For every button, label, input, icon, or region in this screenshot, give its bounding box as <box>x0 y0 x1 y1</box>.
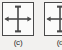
figure-panel-row: (c) (d <box>0 0 62 50</box>
figure-panel-c <box>2 2 34 36</box>
panel-caption-c: (c) <box>2 37 34 48</box>
panel-caption-d: (d <box>44 37 62 48</box>
cross-arrows-icon-c <box>2 2 34 36</box>
cross-arrows-icon-d <box>44 2 62 36</box>
figure-panel-d <box>44 2 62 36</box>
